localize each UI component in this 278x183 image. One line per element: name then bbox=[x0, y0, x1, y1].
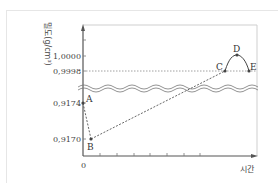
point-b bbox=[89, 137, 92, 140]
label-point-a: A bbox=[85, 94, 93, 104]
y-tick-label-3: 0,9174 bbox=[53, 99, 81, 108]
label-point-b: B bbox=[87, 142, 94, 152]
segment-a-b bbox=[83, 103, 91, 139]
point-c bbox=[223, 69, 226, 72]
segment-b-c bbox=[91, 71, 225, 139]
x-axis-label: 시간 bbox=[240, 164, 255, 174]
x-origin-label: 0 bbox=[81, 161, 86, 170]
label-point-d: D bbox=[233, 44, 240, 54]
y-tick-label-4: 0,9170 bbox=[53, 135, 81, 144]
y-axis-label: 밀도(g/cm³) bbox=[43, 22, 52, 65]
y-tick-label-1: 1,0000 bbox=[53, 52, 81, 61]
y-tick-label-2: 0,9998 bbox=[53, 67, 81, 76]
density-chart: A B C D E 1,0000 0,9998 0,9174 0,9170 0 … bbox=[0, 0, 278, 183]
curve-c-d-e bbox=[225, 55, 249, 71]
point-a bbox=[81, 101, 84, 104]
axis-break-icon bbox=[78, 85, 258, 92]
label-point-c: C bbox=[216, 62, 223, 72]
label-point-e: E bbox=[250, 62, 257, 72]
data-points bbox=[81, 53, 250, 140]
